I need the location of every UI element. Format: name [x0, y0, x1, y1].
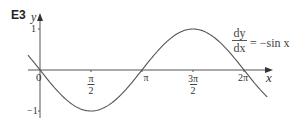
tick-denominator: 2	[191, 86, 196, 95]
chart-plot	[0, 0, 299, 123]
y-tick-label-1: 1	[31, 23, 36, 34]
x-tick-label-2pi: 2π	[238, 73, 248, 82]
tick-numerator: 3π	[188, 74, 198, 83]
equation-rhs: = −sin x	[250, 36, 290, 51]
x-axis-label: x	[266, 70, 272, 86]
origin-label: 0	[36, 71, 42, 83]
equation-numerator: dy	[234, 27, 246, 39]
x-tick-label-pi: π	[143, 73, 148, 82]
tick-numerator: 2π	[238, 73, 248, 82]
tick-numerator: π	[143, 73, 148, 82]
equation-denominator: dx	[234, 42, 246, 54]
equation-fraction: dy dx	[232, 27, 247, 54]
x-tick-label-3pi-2: 3π 2	[188, 74, 198, 95]
y-tick-label-neg1: −1	[27, 105, 38, 116]
tick-denominator: 2	[89, 86, 94, 95]
tick-numerator: π	[88, 74, 93, 83]
y-axis-arrow-icon	[37, 13, 43, 21]
x-tick-label-pi-2: π 2	[88, 74, 95, 95]
